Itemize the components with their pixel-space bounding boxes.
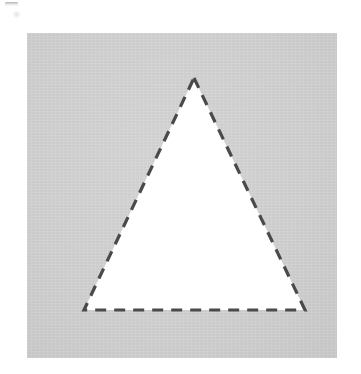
scan-edge-mark-icon — [5, 2, 18, 6]
triangle-figure — [27, 33, 337, 358]
figure-canvas — [0, 0, 361, 374]
image-panel — [27, 33, 337, 358]
dashed-triangle-shape — [84, 78, 305, 310]
scan-smudge-icon — [12, 10, 21, 19]
